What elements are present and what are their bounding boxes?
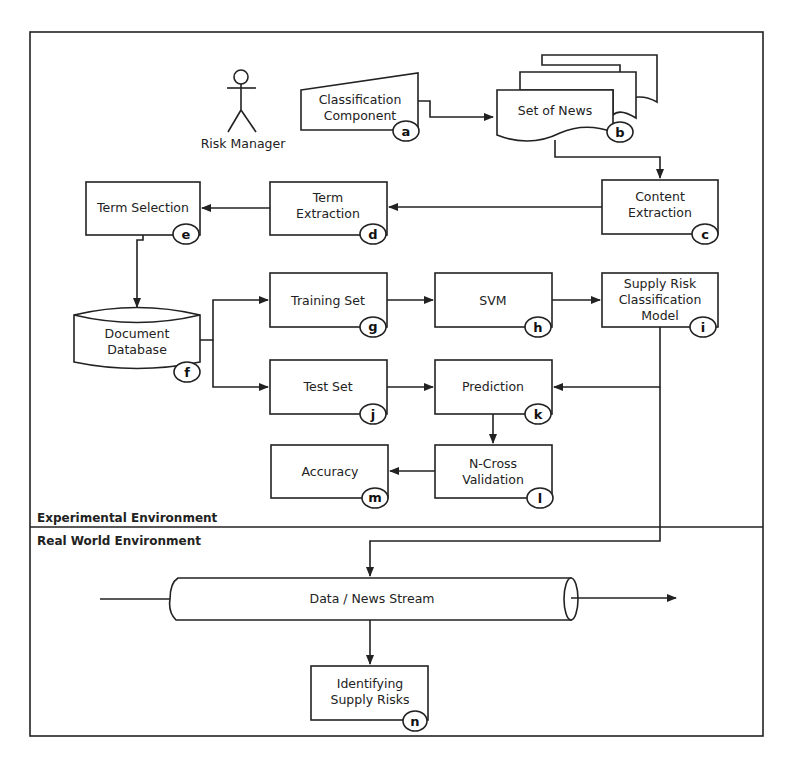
node-accuracy[interactable]: Accuracy m — [271, 445, 388, 508]
svg-text:Data / News Stream: Data / News Stream — [310, 591, 435, 606]
svg-text:Prediction: Prediction — [462, 379, 524, 394]
node-data-news-stream[interactable]: Data / News Stream — [100, 578, 676, 620]
svg-text:Term: Term — [312, 190, 343, 205]
svg-text:d: d — [368, 227, 377, 242]
svg-text:e: e — [182, 227, 191, 242]
svg-text:k: k — [534, 407, 543, 422]
svg-text:Test Set: Test Set — [302, 379, 352, 394]
edge-a-b — [418, 101, 493, 117]
svg-text:b: b — [615, 125, 624, 140]
svg-text:Component: Component — [324, 108, 397, 123]
node-identifying-supply-risks[interactable]: Identifying Supply Risks n — [311, 666, 428, 731]
edge-i-k — [554, 327, 660, 387]
edge-b-c — [555, 140, 660, 178]
diagram-canvas: Experimental Environment Real World Envi… — [0, 0, 793, 767]
svg-text:Model: Model — [641, 308, 679, 323]
svg-text:Classification: Classification — [319, 92, 402, 107]
svg-text:N-Cross: N-Cross — [469, 456, 517, 471]
svg-text:g: g — [368, 319, 377, 334]
experimental-environment-label: Experimental Environment — [37, 511, 218, 525]
node-test-set[interactable]: Test Set j — [270, 360, 387, 424]
svg-text:Validation: Validation — [462, 472, 524, 487]
node-content-extraction[interactable]: Content Extraction c — [602, 180, 718, 244]
svg-text:Set of News: Set of News — [518, 103, 592, 118]
edge-f-g — [200, 300, 268, 340]
node-classification-component[interactable]: Classification Component a — [301, 73, 419, 141]
svg-text:h: h — [533, 320, 542, 335]
svg-text:j: j — [370, 407, 375, 422]
edge-e-f — [137, 235, 143, 307]
risk-manager-label: Risk Manager — [201, 136, 287, 151]
node-set-of-news[interactable]: Set of News b — [497, 55, 657, 142]
svg-text:Document: Document — [105, 326, 170, 341]
svg-text:Accuracy: Accuracy — [301, 464, 359, 479]
svg-text:Extraction: Extraction — [628, 205, 692, 220]
svg-text:f: f — [184, 365, 190, 380]
node-training-set[interactable]: Training Set g — [270, 273, 387, 337]
node-n-cross-validation[interactable]: N-Cross Validation l — [435, 445, 553, 508]
svg-text:m: m — [368, 490, 382, 505]
svg-text:c: c — [701, 227, 709, 242]
svg-text:l: l — [538, 491, 542, 506]
svg-text:SVM: SVM — [479, 293, 506, 308]
svg-text:Database: Database — [107, 342, 167, 357]
edge-f-j — [213, 340, 268, 387]
svg-text:Supply Risk: Supply Risk — [624, 276, 697, 291]
svg-text:Training Set: Training Set — [290, 293, 365, 308]
svg-text:Identifying: Identifying — [337, 676, 404, 691]
risk-manager-actor-icon — [227, 70, 256, 132]
svg-text:Content: Content — [635, 189, 685, 204]
node-term-selection[interactable]: Term Selection e — [86, 182, 200, 244]
svg-text:Term Selection: Term Selection — [96, 200, 189, 215]
real-world-environment-label: Real World Environment — [37, 534, 201, 548]
svg-text:Classification: Classification — [619, 292, 702, 307]
svg-text:i: i — [701, 320, 705, 335]
svg-text:Extraction: Extraction — [296, 206, 360, 221]
node-svm[interactable]: SVM h — [435, 273, 552, 337]
node-term-extraction[interactable]: Term Extraction d — [270, 182, 387, 244]
svg-text:n: n — [410, 714, 419, 729]
svg-text:Supply Risks: Supply Risks — [331, 692, 410, 707]
svg-text:a: a — [402, 124, 411, 139]
